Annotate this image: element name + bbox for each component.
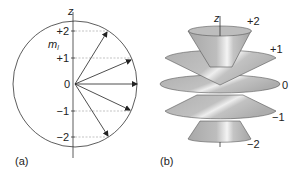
panel-b-cone-model xyxy=(160,16,280,147)
cone-label-minus1: −1 xyxy=(272,111,285,123)
panel-b-caption: (b) xyxy=(160,155,173,167)
cone-label-0: 0 xyxy=(282,79,288,91)
level-label-0: 0 xyxy=(64,78,70,90)
vector-ml-plus1 xyxy=(75,60,131,84)
level-label-minus2: −2 xyxy=(56,131,69,143)
level-label-plus2: +2 xyxy=(56,25,69,37)
level-label-minus1: −1 xyxy=(56,105,69,117)
ml-label: ml xyxy=(48,38,59,51)
cone-label-plus1: +1 xyxy=(270,43,283,55)
panel-a-vector-model: z ml +2 +1 0 −1 −2 (a) xyxy=(13,5,137,167)
cone-label-plus2: +2 xyxy=(247,15,260,27)
z-axis-label: z xyxy=(67,5,74,17)
angular-momentum-vectors xyxy=(75,32,137,136)
z-axis-label-b: z xyxy=(213,12,220,24)
figure-canvas: z ml +2 +1 0 −1 −2 (a) z +2 +1 0 −1 −2 (… xyxy=(0,0,297,180)
cone-ml-minus1 xyxy=(165,95,276,119)
panel-a-caption: (a) xyxy=(15,155,28,167)
cone-label-minus2: −2 xyxy=(247,138,260,150)
cone-ml-minus2 xyxy=(188,121,251,142)
level-label-plus1: +1 xyxy=(56,52,69,64)
